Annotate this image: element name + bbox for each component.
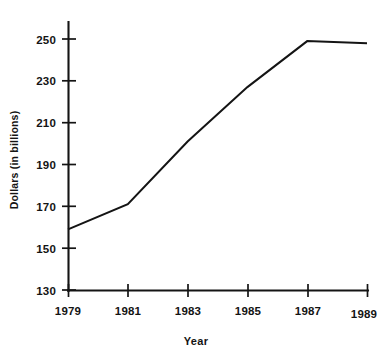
line-chart: 250 230 210 190 170 150 130 1979 1981 19… [0,0,377,358]
y-tick-label-210: 210 [36,117,56,129]
y-tick-label-230: 230 [36,75,56,87]
y-axis-title: Dollars (in billions) [8,111,20,210]
x-tick-label-1979: 1979 [55,305,81,317]
y-tick-label-150: 150 [36,243,56,255]
x-tick-label-1989: 1989 [351,308,377,320]
x-tick-label-1981: 1981 [115,305,142,317]
x-tick-label-1985: 1985 [235,305,262,317]
chart-plot-area: 250 230 210 190 170 150 130 1979 1981 19… [0,0,377,358]
x-axis-title: Year [184,335,209,347]
y-tick-label-190: 190 [36,159,56,171]
x-tick-label-1987: 1987 [295,305,321,317]
y-tick-label-170: 170 [36,201,56,213]
y-tick-label-130: 130 [36,285,56,297]
y-tick-label-250: 250 [36,34,56,46]
data-series-line [68,41,367,229]
x-tick-label-1983: 1983 [175,305,201,317]
